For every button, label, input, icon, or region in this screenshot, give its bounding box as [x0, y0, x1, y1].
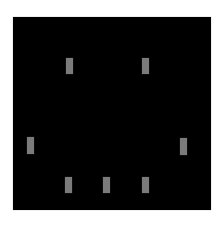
gray-bar-middle-left — [27, 137, 34, 154]
black-square-canvas — [13, 17, 211, 210]
gray-bar-top-left — [66, 58, 73, 74]
gray-bar-bottom-left — [65, 177, 72, 193]
gray-bar-bottom-right — [142, 177, 149, 193]
gray-bar-top-right — [142, 58, 149, 74]
gray-bar-bottom-center — [103, 177, 110, 193]
gray-bar-middle-right — [180, 138, 187, 155]
